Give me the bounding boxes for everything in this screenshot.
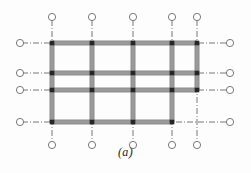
column-line-5-member	[195, 43, 199, 90]
column-line-2-bubble-top[interactable]	[88, 13, 95, 20]
joint-node	[50, 88, 55, 93]
joint-node	[131, 120, 136, 125]
column-line-1-member	[50, 43, 54, 122]
figure-container: (a)	[0, 0, 251, 173]
beam-line-B-bubble-left[interactable]	[16, 69, 23, 76]
structural-members	[50, 41, 199, 124]
beam-row-D	[52, 120, 172, 124]
column-line-5-bubble-top[interactable]	[193, 13, 200, 20]
joint-node	[90, 88, 95, 93]
beam-line-C-bubble-left[interactable]	[16, 86, 23, 93]
beam-line-A-bubble-left[interactable]	[16, 39, 23, 46]
joint-node	[131, 41, 136, 46]
joint-node	[50, 120, 55, 125]
beam-row-A	[52, 41, 197, 45]
beam-line-B-bubble-right[interactable]	[226, 69, 233, 76]
column-line-3-member	[131, 43, 135, 122]
joint-node	[170, 88, 175, 93]
joint-node	[131, 88, 136, 93]
joint-node	[195, 88, 200, 93]
grid-bubbles	[16, 13, 233, 148]
beam-line-D-bubble-right[interactable]	[226, 118, 233, 125]
joint-node	[50, 71, 55, 76]
joint-node	[195, 71, 200, 76]
joint-node	[170, 41, 175, 46]
beam-line-C-bubble-right[interactable]	[226, 86, 233, 93]
beam-line-A-bubble-right[interactable]	[226, 39, 233, 46]
column-line-1-bubble-top[interactable]	[48, 13, 55, 20]
joint-node	[90, 71, 95, 76]
joint-node	[195, 41, 200, 46]
beam-line-D-bubble-left[interactable]	[16, 118, 23, 125]
column-line-4-member	[170, 43, 174, 122]
column-line-4-bubble-top[interactable]	[168, 13, 175, 20]
joint-node	[90, 120, 95, 125]
column-line-3-bubble-top[interactable]	[129, 13, 136, 20]
joint-node	[170, 71, 175, 76]
joint-node	[50, 41, 55, 46]
beam-row-C	[52, 88, 197, 92]
beam-row-B	[52, 71, 197, 75]
joint-nodes	[50, 41, 200, 125]
joint-node	[90, 41, 95, 46]
joint-node	[170, 120, 175, 125]
column-line-2-member	[90, 43, 94, 122]
joint-node	[131, 71, 136, 76]
figure-caption: (a)	[0, 145, 251, 160]
